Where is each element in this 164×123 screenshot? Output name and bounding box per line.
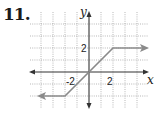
x-axis-label: x (147, 73, 154, 87)
x-tick-label-neg2: -2 (66, 76, 75, 87)
y-tick-label-2: 2 (81, 43, 87, 54)
y-axis-down-arrow-icon (87, 103, 92, 109)
x-tick-label-2: 2 (107, 76, 113, 87)
x-axis-left-arrow-icon (29, 70, 35, 75)
y-axis-label: y (79, 5, 87, 19)
y-axis-up-arrow-icon (87, 11, 92, 17)
coordinate-graph: y x -2 2 2 (0, 0, 164, 123)
